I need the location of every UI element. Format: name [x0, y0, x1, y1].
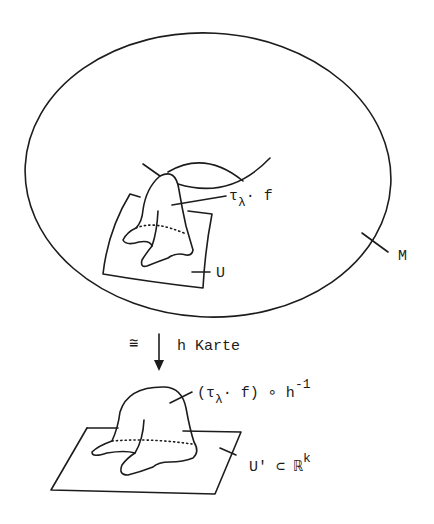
chart-domain-label-text: U	[216, 265, 225, 282]
handle-stroke-left	[143, 164, 160, 176]
tau-symbol: τ	[229, 188, 238, 205]
manifold-label-text: M	[398, 248, 407, 265]
iso-symbol-text: ≅	[129, 336, 138, 353]
target-domain-parallelogram	[51, 428, 241, 494]
manifold-ellipse	[18, 24, 398, 327]
upper-bump-fold	[152, 211, 158, 246]
lower-function-leader	[170, 392, 192, 403]
lower-function-open: (τ	[197, 385, 215, 402]
chart-map-label: h Karte	[177, 339, 240, 354]
manifold-label: M	[398, 249, 407, 264]
chart-map-arrow-head	[154, 360, 164, 371]
chart-domain-label: U	[216, 266, 225, 281]
dimension-superscript: k	[303, 451, 311, 466]
diagram-drawing	[0, 0, 434, 524]
lower-lambda-subscript: λ	[215, 392, 223, 407]
lower-bump-fold	[135, 420, 144, 453]
handle-upper-arc	[168, 163, 243, 181]
target-domain-base: U' ⊂ ℝ	[249, 459, 303, 476]
lower-function-middle: · f) ∘ h	[223, 385, 295, 402]
lower-bump-outline	[92, 387, 197, 475]
chart-patch-u	[103, 194, 212, 288]
upper-bump-dotted-base	[136, 225, 186, 234]
chart-map-label-text: h Karte	[177, 338, 240, 355]
inverse-superscript: -1	[295, 377, 311, 392]
isomorphism-symbol: ≅	[129, 337, 138, 352]
upper-function-rest: · f	[246, 188, 273, 205]
target-domain-label: U' ⊂ ℝk	[249, 460, 311, 475]
chart-diagram: M U τλ· f ≅ h Karte (τλ· f) ∘ h-1 U' ⊂ ℝ…	[0, 0, 434, 524]
upper-function-label: τλ· f	[229, 189, 273, 204]
lower-function-label: (τλ· f) ∘ h-1	[197, 386, 310, 401]
lower-bump-dotted-base	[112, 440, 192, 444]
lambda-subscript: λ	[238, 195, 246, 210]
